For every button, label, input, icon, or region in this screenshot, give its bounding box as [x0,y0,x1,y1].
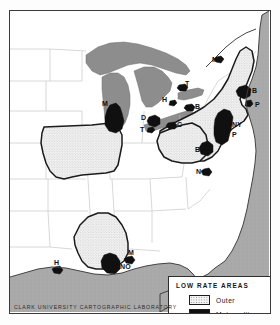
legend-swatch-metropolitan [189,309,210,314]
map-figure: M T H B B P M C D T C NY P B N H NO M LO… [0,0,280,325]
legend-title: LOW RATE AREAS [176,282,249,289]
map-legend: LOW RATE AREAS Outer Metropolitan [168,276,271,314]
legend-entry-metropolitan: Metropolitan [189,309,258,314]
map-frame: M T H B B P M C D T C NY P B N H NO M LO… [9,10,271,314]
cartographic-credit: CLARK UNIVERSITY CARTOGRAPHIC LABORATORY [14,304,177,310]
map-graphic [10,11,269,312]
legend-swatch-outer [189,295,210,305]
legend-label-metropolitan: Metropolitan [216,311,258,315]
legend-entry-outer: Outer [189,295,235,305]
legend-label-outer: Outer [216,297,235,304]
metro-detroit [147,115,160,127]
